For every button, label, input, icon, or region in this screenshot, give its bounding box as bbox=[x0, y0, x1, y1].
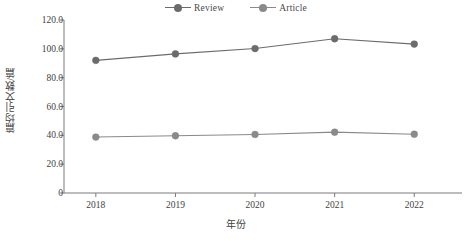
y-axis-title-text: 篇均引文数/篇 bbox=[3, 67, 18, 133]
x-axis-tick-label: 2018 bbox=[86, 200, 105, 210]
x-axis-tick-labels: 20182019202020212022 bbox=[0, 0, 472, 241]
x-axis-tick-label: 2019 bbox=[166, 200, 185, 210]
x-axis-title-text: 年份 bbox=[226, 219, 246, 230]
x-axis-title: 年份 bbox=[0, 216, 472, 231]
x-axis-tick-label: 2022 bbox=[405, 200, 424, 210]
y-axis-title: 篇均引文数/篇 bbox=[2, 0, 18, 200]
x-axis-tick-label: 2020 bbox=[246, 200, 265, 210]
chart-figure: Review Article 020.040.060.080.0100.0120… bbox=[0, 0, 472, 241]
x-axis-tick-label: 2021 bbox=[325, 200, 344, 210]
